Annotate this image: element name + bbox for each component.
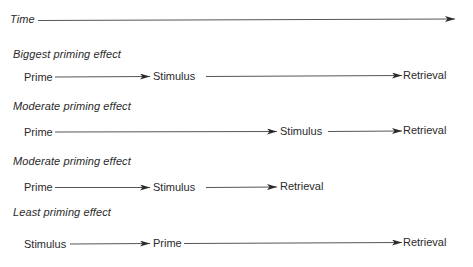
row2-arrow-stimulus-to-retrieval — [328, 131, 402, 132]
time-axis-arrow — [38, 19, 455, 21]
row2-arrow-prime-to-stimulus — [55, 132, 277, 133]
row2-node-prime: Prime — [24, 126, 53, 138]
priming-timeline-diagram: Time Biggest priming effect Prime Stimul… — [0, 0, 473, 267]
row3-node-stimulus: Stimulus — [153, 181, 195, 193]
row1-arrow-stimulus-to-retrieval — [206, 76, 402, 77]
row4-arrow-prime-to-retrieval — [184, 243, 402, 244]
row1-node-stimulus: Stimulus — [153, 70, 195, 82]
row4-node-retrieval: Retrieval — [403, 236, 446, 248]
row1-node-retrieval: Retrieval — [403, 69, 446, 81]
row3-arrow-stimulus-to-retrieval — [206, 187, 277, 188]
row1-heading: Biggest priming effect — [13, 48, 121, 60]
time-axis-label: Time — [10, 13, 35, 25]
row3-node-prime: Prime — [24, 181, 53, 193]
row2-heading: Moderate priming effect — [13, 100, 131, 112]
row4-heading: Least priming effect — [13, 206, 111, 218]
row3-node-retrieval: Retrieval — [280, 180, 323, 192]
row1-node-prime: Prime — [24, 71, 53, 83]
row4-node-stimulus: Stimulus — [24, 238, 66, 250]
row2-node-stimulus: Stimulus — [280, 125, 322, 137]
row1-arrow-prime-to-stimulus — [55, 77, 150, 78]
row4-arrow-stimulus-to-prime — [70, 244, 150, 245]
row3-heading: Moderate priming effect — [13, 155, 131, 167]
row2-node-retrieval: Retrieval — [403, 124, 446, 136]
row4-node-prime: Prime — [153, 237, 182, 249]
